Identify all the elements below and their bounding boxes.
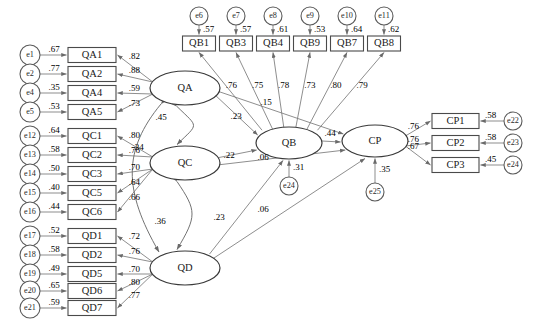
error-label-e16: e16 xyxy=(24,207,36,216)
error-variance-e4: .35 xyxy=(48,82,60,92)
latent-label-QB: QB xyxy=(282,137,297,148)
error-variance-e8: .61 xyxy=(277,24,288,34)
loading-value-QB4: .78 xyxy=(278,80,290,90)
error-variance-e5: .53 xyxy=(48,101,60,111)
error-variance-e6: .57 xyxy=(203,24,215,34)
error-variance-e2: .77 xyxy=(48,63,60,73)
loading-value-QA1: .82 xyxy=(129,51,140,61)
disturbance-label-CP: e25 xyxy=(369,187,381,196)
latent-label-QD: QD xyxy=(177,262,193,273)
indicator-label-QD6: QD6 xyxy=(82,285,102,296)
indicator-label-QB7: QB7 xyxy=(337,37,357,48)
corr-value-QA-QC: .45 xyxy=(155,112,167,122)
loading-value-QD7: .77 xyxy=(129,290,141,300)
error-label-e10: e10 xyxy=(341,11,353,20)
loading-value-QC1: .80 xyxy=(129,130,141,140)
path-value-QC-CP: .06 xyxy=(257,152,269,162)
error-label-e2: e2 xyxy=(26,69,34,78)
latent-label-QA: QA xyxy=(177,82,193,93)
error-label-e20: e20 xyxy=(24,286,36,295)
sem-path-diagram: e1.67QA1e2.77QA2e4.35QA4e5.53QA5e12.64QC… xyxy=(0,0,542,322)
diagram-canvas: e1.67QA1e2.77QA2e4.35QA4e5.53QA5e12.64QC… xyxy=(0,0,542,322)
loading-value-CP1: .76 xyxy=(408,121,420,131)
indicator-label-QB1: QB1 xyxy=(189,37,209,48)
indicator-label-QD5: QD5 xyxy=(82,268,102,279)
loading-QB-QB7 xyxy=(306,53,347,131)
indicator-label-QA5: QA5 xyxy=(82,106,102,117)
loading-value-QB8: .79 xyxy=(356,80,368,90)
error-variance-cp-CP2: .58 xyxy=(485,132,497,142)
error-label-e17: e17 xyxy=(24,231,36,240)
indicator-label-QA4: QA4 xyxy=(82,87,103,98)
indicator-label-QC6: QC6 xyxy=(82,206,102,217)
path-value-QD-QB: .23 xyxy=(213,212,225,222)
error-label-e4: e4 xyxy=(26,88,34,97)
loading-value-QB3: .75 xyxy=(252,80,264,90)
error-variance-e21: .59 xyxy=(48,297,60,307)
loading-value-QB7: .80 xyxy=(330,80,342,90)
error-label-cp-CP3: e24 xyxy=(507,160,519,169)
error-label-e21: e21 xyxy=(24,303,36,312)
path-value-QD-CP: .06 xyxy=(257,204,269,214)
loading-value-QC3: .70 xyxy=(129,162,141,172)
indicator-label-QA2: QA2 xyxy=(82,68,102,79)
error-variance-e7: .57 xyxy=(240,24,252,34)
loading-value-QD1: .72 xyxy=(129,231,140,241)
loading-value-QA2: .88 xyxy=(129,65,141,75)
error-variance-e1: .67 xyxy=(48,44,60,54)
loading-QC-QC2 xyxy=(118,155,153,157)
error-variance-e20: .65 xyxy=(48,280,60,290)
error-variance-e18: .58 xyxy=(48,244,60,254)
path-QD-QB xyxy=(210,161,284,255)
indicator-label-QB8: QB8 xyxy=(374,37,394,48)
error-variance-e11: .62 xyxy=(388,24,399,34)
indicator-label-CP1: CP1 xyxy=(446,115,464,126)
error-label-e18: e18 xyxy=(24,250,36,259)
indicator-label-QC2: QC2 xyxy=(82,149,102,160)
error-variance-e14: .50 xyxy=(48,163,60,173)
loading-QA-QA4 xyxy=(118,93,153,94)
corr-value-QA-QD: .34 xyxy=(132,142,144,152)
loading-value-CP3: .67 xyxy=(408,141,420,151)
loading-QC-QC6 xyxy=(118,169,153,212)
error-variance-e19: .49 xyxy=(48,263,60,273)
error-label-e11: e11 xyxy=(378,11,390,20)
error-variance-cp-CP1: .58 xyxy=(485,110,497,120)
disturbance-value-QB: .31 xyxy=(293,162,304,172)
indicator-label-QD7: QD7 xyxy=(82,302,102,313)
error-label-e7: e7 xyxy=(232,11,240,20)
error-label-e15: e15 xyxy=(24,188,36,197)
indicator-label-QC1: QC1 xyxy=(82,130,102,141)
path-value-QC-QB: .22 xyxy=(223,150,234,160)
loading-value-QC6: .66 xyxy=(129,192,141,202)
loading-QB-QB4 xyxy=(273,53,284,131)
indicator-label-CP2: CP2 xyxy=(446,137,464,148)
error-label-e5: e5 xyxy=(26,107,34,116)
error-variance-e17: .52 xyxy=(48,225,59,235)
error-variance-e12: .64 xyxy=(48,125,60,135)
loading-QB-QB8 xyxy=(318,53,385,131)
error-label-e19: e19 xyxy=(24,269,36,278)
latent-label-CP: CP xyxy=(369,135,382,146)
error-variance-e15: .40 xyxy=(48,182,60,192)
loading-value-QD6: .80 xyxy=(129,277,141,287)
error-label-e12: e12 xyxy=(24,131,36,140)
loading-value-QC5: .64 xyxy=(129,177,141,187)
error-variance-e13: .58 xyxy=(48,144,60,154)
error-label-e1: e1 xyxy=(26,50,34,59)
path-value-QB-CP: .44 xyxy=(324,128,336,138)
error-label-e13: e13 xyxy=(24,150,36,159)
path-value-QA-CP: .15 xyxy=(260,97,272,107)
indicator-label-QB3: QB3 xyxy=(226,37,246,48)
loading-value-QD2: .76 xyxy=(129,246,141,256)
error-variance-e10: .64 xyxy=(351,24,363,34)
indicator-label-QD1: QD1 xyxy=(82,230,102,241)
loading-value-QB9: .73 xyxy=(304,80,316,90)
disturbance-value-CP: .35 xyxy=(379,164,391,174)
indicator-label-QD2: QD2 xyxy=(82,249,102,260)
loading-value-QB1: .76 xyxy=(226,80,238,90)
loading-value-QA5: .73 xyxy=(129,98,141,108)
corr-value-QC-QD: .36 xyxy=(154,216,166,226)
error-variance-e16: .44 xyxy=(48,201,60,211)
indicator-label-QC5: QC5 xyxy=(82,187,102,198)
